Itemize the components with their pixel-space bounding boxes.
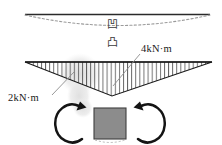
moment-label-right: 4kN·m — [141, 43, 172, 54]
concave-glyph-icon: 凹 — [107, 19, 118, 30]
convex-glyph-icon: 凸 — [107, 37, 118, 48]
moment-label-left: 2kN·m — [8, 92, 39, 103]
element-block — [94, 108, 126, 143]
moment-arrow-right — [134, 102, 165, 143]
engineering-figure: 4kN·m 2kN·m 凹 凸 — [0, 0, 222, 145]
